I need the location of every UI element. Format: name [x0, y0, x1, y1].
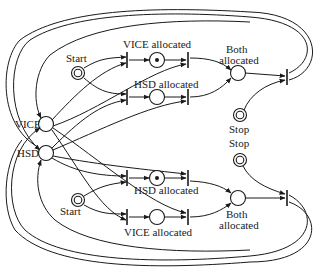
place-vice-allocated-bottom — [150, 210, 165, 225]
label-vice: VICE — [15, 118, 41, 130]
label-start-bottom: Start — [60, 205, 81, 217]
label-stop-bottom: Stop — [229, 137, 250, 149]
label-vice-allocated-top: VICE allocated — [123, 38, 192, 50]
petri-net-diagram: VICE HSD Start VICE allocated HSD alloca… — [0, 0, 326, 274]
place-vice — [39, 117, 54, 132]
label-vice-allocated-bottom: VICE allocated — [124, 226, 193, 238]
label-hsd: HSD — [17, 147, 39, 159]
place-hsd-allocated-top — [150, 90, 165, 105]
place-both-allocated-top — [231, 66, 246, 81]
place-both-allocated-bottom — [231, 191, 246, 206]
label-both-top-2: allocated — [219, 54, 259, 66]
token-icon — [155, 176, 159, 180]
label-hsd-allocated-bottom: HSD allocated — [134, 184, 199, 196]
edges-top — [52, 57, 285, 150]
token-icon — [155, 58, 159, 62]
label-start-top: Start — [66, 52, 87, 64]
label-both-bottom-2: allocated — [219, 219, 259, 231]
label-hsd-allocated-top: HSD allocated — [134, 78, 199, 90]
label-stop-top: Stop — [229, 123, 250, 135]
edges-bottom — [52, 128, 285, 220]
labels: VICE HSD Start VICE allocated HSD alloca… — [15, 38, 259, 238]
place-hsd — [39, 146, 54, 161]
